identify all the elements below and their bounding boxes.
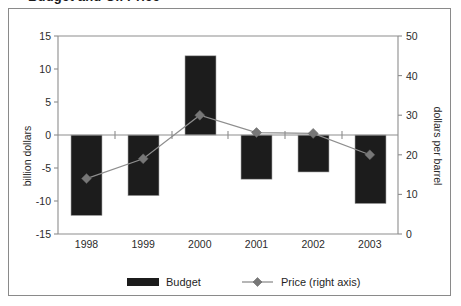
legend-label-budget: Budget <box>166 276 201 288</box>
x-label-1999: 1999 <box>132 238 156 250</box>
left-tick-5: 5 <box>45 96 51 108</box>
bar-2001 <box>241 135 272 179</box>
bar-2003 <box>355 135 386 204</box>
price-markers <box>82 110 375 183</box>
right-tick-30: 30 <box>406 109 418 121</box>
left-tick-m15: -15 <box>36 228 51 240</box>
left-tick-0: 0 <box>45 129 51 141</box>
figure-frame: billion dollars dollars per barrel 15 10… <box>8 8 451 296</box>
right-tick-10: 10 <box>406 188 418 200</box>
left-axis-tick-labels: 15 10 5 0 -5 -10 -15 <box>36 30 51 240</box>
left-tick-m10: -10 <box>36 195 51 207</box>
right-tick-40: 40 <box>406 70 418 82</box>
right-axis-title: dollars per barrel <box>432 107 444 186</box>
chart-plot-area: billion dollars dollars per barrel 15 10… <box>9 9 452 297</box>
left-axis-ticks <box>54 36 58 234</box>
cropped-figure-title: Budget and Oil Price <box>0 0 461 7</box>
x-label-2000: 2000 <box>188 238 212 250</box>
x-label-1998: 1998 <box>75 238 99 250</box>
x-label-2002: 2002 <box>302 238 326 250</box>
right-tick-20: 20 <box>406 149 418 161</box>
chart-svg: billion dollars dollars per barrel 15 10… <box>9 9 452 297</box>
figure-title-text: Budget and Oil Price <box>28 0 160 4</box>
bar-1999 <box>128 135 159 196</box>
left-tick-10: 10 <box>39 63 51 75</box>
x-label-2001: 2001 <box>245 238 269 250</box>
right-tick-50: 50 <box>406 30 418 42</box>
legend-marker-price <box>253 278 262 287</box>
right-axis-tick-labels: 50 40 30 20 10 0 <box>406 30 418 240</box>
right-tick-0: 0 <box>406 228 412 240</box>
left-tick-15: 15 <box>39 30 51 42</box>
x-label-2003: 2003 <box>358 238 382 250</box>
left-axis-title: billion dollars <box>21 126 33 187</box>
legend-label-price: Price (right axis) <box>281 276 360 288</box>
chart-legend: Budget Price (right axis) <box>127 276 360 288</box>
category-axis-labels: 1998 1999 2000 2001 2002 2003 <box>75 238 382 250</box>
right-axis-ticks <box>398 36 402 234</box>
left-tick-m5: -5 <box>42 162 51 174</box>
bar-2002 <box>298 135 329 172</box>
legend-swatch-budget <box>127 278 159 286</box>
